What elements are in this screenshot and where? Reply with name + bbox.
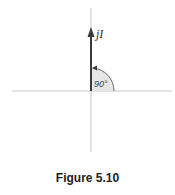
angle-label: 90° bbox=[94, 79, 108, 89]
phasor-diagram: jI 90° bbox=[0, 0, 175, 195]
phasor-label: jI bbox=[94, 27, 104, 41]
figure-caption: Figure 5.10 bbox=[0, 171, 175, 185]
phasor-arrowhead-icon bbox=[88, 27, 95, 37]
